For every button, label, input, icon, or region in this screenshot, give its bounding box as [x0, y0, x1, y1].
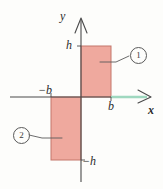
x-axis-label: x: [148, 104, 154, 116]
y-axis-label: y: [60, 10, 65, 22]
callout-badge-2: 2: [13, 127, 30, 144]
tick-label-minus-h: −h: [82, 155, 96, 167]
tick-label-b: b: [108, 100, 114, 112]
tick-label-h: h: [66, 39, 72, 51]
figure-canvas: y x h −h b −b 1 2: [0, 0, 163, 189]
rectangle-1-shape: [81, 46, 111, 97]
rectangle-2-shape: [51, 97, 81, 160]
tick-label-minus-b: −b: [38, 84, 52, 96]
callout-badge-1: 1: [130, 47, 147, 64]
